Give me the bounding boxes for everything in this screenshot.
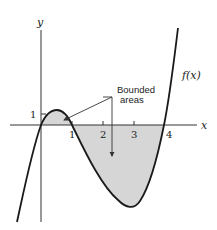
annotation-line2: areas <box>120 94 144 105</box>
y-tick-label-1: 1 <box>30 109 36 120</box>
x-tick-label-1: 1 <box>69 129 75 140</box>
x-tick-label-3: 3 <box>131 129 137 140</box>
y-axis-label: y <box>36 16 44 29</box>
shaded-area-negative <box>72 125 164 207</box>
bounded-area-diagram: y x 1 1 2 3 4 f(x) Bounded areas <box>0 0 217 230</box>
curve-label: f(x) <box>181 69 201 82</box>
x-ticks <box>72 121 134 125</box>
x-tick-label-4: 4 <box>166 129 172 140</box>
x-axis-label: x <box>201 119 208 132</box>
x-tick-label-2: 2 <box>100 129 106 140</box>
